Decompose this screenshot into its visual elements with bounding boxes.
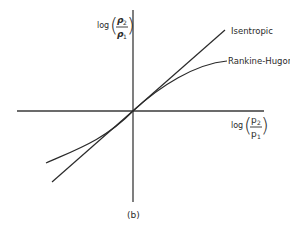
- rankine-hugoniot-curve: [46, 61, 227, 163]
- x-axis-label: log ( p 2 p 1 ): [231, 113, 269, 140]
- figure-caption: (b): [127, 210, 140, 220]
- shock-adiabat-diagram: Isentropic Rankine-Hugoniot log ( ρ 2 ρ …: [0, 0, 290, 235]
- svg-text:): ): [261, 113, 269, 137]
- svg-text:): ): [127, 13, 135, 37]
- rankine-hugoniot-label: Rankine-Hugoniot: [228, 56, 290, 66]
- y-axis-label: log ( ρ 2 ρ 1 ): [97, 13, 135, 40]
- svg-text:log: log: [97, 21, 109, 30]
- svg-text:log: log: [231, 121, 243, 130]
- isentropic-label: Isentropic: [231, 26, 273, 36]
